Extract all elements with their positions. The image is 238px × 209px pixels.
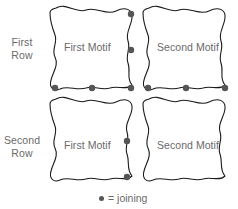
diagram-canvas: First Row Second Row First Motif Second … <box>0 0 238 209</box>
motif-label-row1-col1: First Motif <box>64 41 111 53</box>
legend: = joining <box>99 192 147 204</box>
joining-dot <box>89 85 95 91</box>
row-label-line2: Row <box>0 147 44 160</box>
joining-dot <box>128 47 134 53</box>
row-label-line1: First <box>0 36 44 49</box>
joining-dot <box>183 85 189 91</box>
row-label-second-row: Second Row <box>0 134 44 159</box>
joining-dot <box>124 138 130 144</box>
row-label-line1: Second <box>0 134 44 147</box>
joining-dot <box>52 85 58 91</box>
joining-dot <box>128 11 134 17</box>
motif-grid-svg <box>0 0 238 209</box>
joining-dot <box>145 85 151 91</box>
row-label-first-row: First Row <box>0 36 44 61</box>
joining-dot <box>124 174 130 180</box>
joining-dot <box>128 85 134 91</box>
legend-label: = joining <box>108 192 147 204</box>
motif-label-row2-col2: Second Motif <box>157 139 219 151</box>
row-label-line2: Row <box>0 49 44 62</box>
joining-dot-icon <box>99 196 104 201</box>
joining-dot <box>222 85 228 91</box>
motif-label-row1-col2: Second Motif <box>157 41 219 53</box>
motif-label-row2-col1: First Motif <box>64 139 111 151</box>
